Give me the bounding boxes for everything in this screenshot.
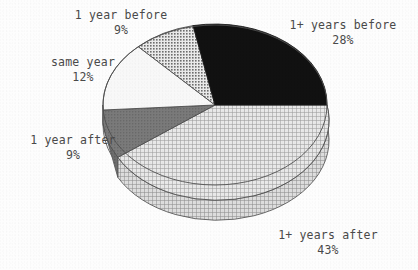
pie-label-1-year-before-name: 1 year before (46, 8, 196, 23)
pie-label-1-year-after: 1 year after 9% (0, 133, 148, 163)
pie-label-1plus-years-after-name: 1+ years after (248, 228, 408, 243)
pie-label-same-year-percent: 12% (8, 70, 158, 85)
pie-label-same-year-name: same year (8, 55, 158, 70)
pie-label-1plus-years-after-percent: 43% (248, 243, 408, 258)
pie-label-1-year-before: 1 year before 9% (46, 8, 196, 38)
pie-label-1plus-years-after: 1+ years after 43% (248, 228, 408, 258)
pie-chart: 1 year before 9% same year 12% 1 year af… (0, 0, 418, 270)
pie-label-1-year-before-percent: 9% (46, 23, 196, 38)
pie-label-1-year-after-name: 1 year after (0, 133, 148, 148)
pie-label-1plus-years-before-percent: 28% (268, 33, 418, 48)
pie-label-1-year-after-percent: 9% (0, 148, 148, 163)
pie-label-same-year: same year 12% (8, 55, 158, 85)
pie-slices (103, 24, 329, 200)
pie-label-1plus-years-before: 1+ years before 28% (268, 18, 418, 48)
pie-label-1plus-years-before-name: 1+ years before (268, 18, 418, 33)
